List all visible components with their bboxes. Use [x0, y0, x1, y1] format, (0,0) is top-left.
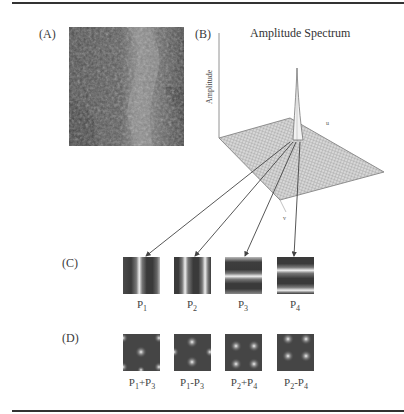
- grating-p3: [225, 257, 262, 294]
- label-p1-minus-p3: P1-P3: [162, 376, 222, 391]
- plaid-p2-plus-p4: [225, 334, 262, 371]
- label-p2-minus-p4: P2-P4: [266, 376, 326, 391]
- panel-c-label: (C): [62, 256, 78, 271]
- grating-p4: [277, 257, 314, 294]
- label-p4: P4: [265, 298, 325, 313]
- plaid-p1-plus-p3: [123, 334, 160, 371]
- panel-d-label: (D): [62, 331, 79, 346]
- plaid-p1-minus-p3: [174, 334, 211, 371]
- grating-p1: [123, 257, 160, 294]
- plaid-p2-minus-p4: [277, 334, 314, 371]
- label-p2-plus-p4: P2+P4: [214, 376, 274, 391]
- label-p3: P3: [213, 298, 273, 313]
- grating-p2: [174, 257, 211, 294]
